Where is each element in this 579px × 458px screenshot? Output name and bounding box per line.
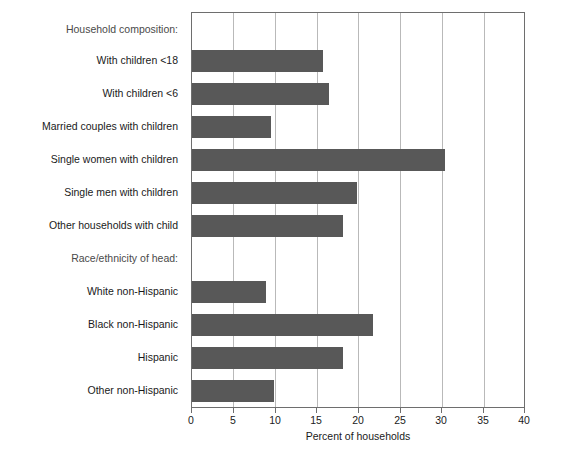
xtick-label-0: 0 <box>188 414 194 426</box>
bar-single-men <box>192 182 357 204</box>
axis-label-household-composition: Household composition: <box>66 23 178 35</box>
bar-chart: Household composition: With children <18… <box>0 0 579 458</box>
plot-area <box>191 12 525 408</box>
axis-label-black-non-hispanic: Black non-Hispanic <box>88 318 178 330</box>
xtick-label-35: 35 <box>477 414 489 426</box>
bar-with-children-6 <box>192 83 329 105</box>
gridline-30 <box>442 13 443 407</box>
tickmark-20 <box>358 408 359 413</box>
tickmark-30 <box>441 408 442 413</box>
tickmark-10 <box>275 408 276 413</box>
xtick-label-30: 30 <box>435 414 447 426</box>
axis-label-other-households: Other households with child <box>49 219 178 231</box>
axis-label-race-ethnicity: Race/ethnicity of head: <box>71 252 178 264</box>
bar-other-households <box>192 215 343 237</box>
axis-label-white-non-hispanic: White non-Hispanic <box>87 285 178 297</box>
axis-label-single-women: Single women with children <box>51 153 178 165</box>
xtick-label-40: 40 <box>518 414 530 426</box>
gridline-20 <box>358 13 359 407</box>
tickmark-0 <box>191 408 192 413</box>
bar-hispanic <box>192 347 343 369</box>
axis-label-other-non-hispanic: Other non-Hispanic <box>88 384 178 396</box>
axis-label-married-couples: Married couples with children <box>42 120 178 132</box>
axis-label-hispanic: Hispanic <box>138 351 178 363</box>
bar-other-non-hispanic <box>192 380 274 402</box>
axis-label-with-children-6: With children <6 <box>102 87 178 99</box>
tickmark-40 <box>524 408 525 413</box>
axis-label-with-children-18: With children <18 <box>97 54 178 66</box>
bar-black-non-hispanic <box>192 314 373 336</box>
category-axis-labels: Household composition: With children <18… <box>0 0 186 458</box>
tickmark-35 <box>483 408 484 413</box>
x-axis-title: Percent of households <box>191 430 525 442</box>
bar-married-couples <box>192 116 271 138</box>
tickmark-15 <box>316 408 317 413</box>
tickmark-25 <box>400 408 401 413</box>
x-axis-tickmarks <box>191 408 525 413</box>
gridline-25 <box>400 13 401 407</box>
bar-with-children-18 <box>192 50 323 72</box>
axis-label-single-men: Single men with children <box>64 186 178 198</box>
gridline-35 <box>484 13 485 407</box>
xtick-label-25: 25 <box>394 414 406 426</box>
x-axis-tick-labels: 0 5 10 15 20 25 30 35 40 <box>191 414 525 428</box>
xtick-label-5: 5 <box>230 414 236 426</box>
bar-single-women <box>192 149 445 171</box>
xtick-label-15: 15 <box>310 414 322 426</box>
tickmark-5 <box>233 408 234 413</box>
xtick-label-10: 10 <box>269 414 281 426</box>
xtick-label-20: 20 <box>352 414 364 426</box>
bar-white-non-hispanic <box>192 281 266 303</box>
